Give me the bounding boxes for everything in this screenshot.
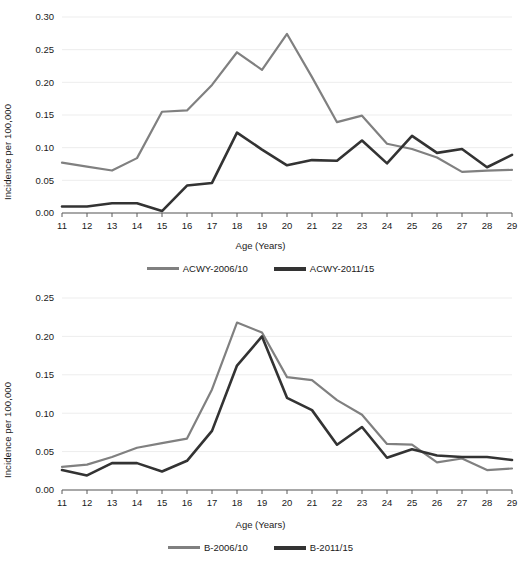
x-tick-label: 12 bbox=[82, 220, 93, 231]
y-tick-label: 0.15 bbox=[36, 369, 55, 380]
x-tick-label: 25 bbox=[407, 220, 418, 231]
x-tick-label: 17 bbox=[207, 497, 218, 508]
y-tick-label: 0.25 bbox=[36, 292, 55, 303]
x-tick-label: 18 bbox=[232, 220, 243, 231]
x-tick-label: 12 bbox=[82, 497, 93, 508]
y-tick-label: 0.05 bbox=[36, 446, 55, 457]
line-chart-acwy: 0.000.050.100.150.200.250.30111213141516… bbox=[0, 0, 521, 240]
x-tick-label: 24 bbox=[382, 497, 393, 508]
legend-b: B-2006/10 B-2011/15 bbox=[0, 542, 521, 553]
x-tick-label: 15 bbox=[157, 497, 168, 508]
x-tick-label: 18 bbox=[232, 497, 243, 508]
y-axis-title-b: Incidence per 100,000 bbox=[2, 382, 13, 478]
legend-swatch-line-icon bbox=[147, 267, 179, 270]
chart-panel-acwy: 0.000.050.100.150.200.250.30111213141516… bbox=[0, 0, 521, 281]
y-tick-label: 0.10 bbox=[36, 408, 55, 419]
x-axis-title-b: Age (Years) bbox=[0, 519, 521, 530]
legend-label: B-2011/15 bbox=[310, 542, 353, 553]
y-tick-label: 0.10 bbox=[36, 142, 55, 153]
plot-area-b: 0.000.050.100.150.200.251112131415161718… bbox=[0, 281, 521, 519]
x-tick-label: 27 bbox=[457, 497, 468, 508]
x-tick-label: 28 bbox=[482, 220, 493, 231]
x-tick-label: 26 bbox=[432, 497, 443, 508]
legend-swatch-line-icon bbox=[168, 546, 200, 549]
x-tick-label: 19 bbox=[257, 497, 268, 508]
series-line-acwy-2011-15 bbox=[62, 133, 512, 211]
x-tick-label: 13 bbox=[107, 220, 118, 231]
x-tick-label: 21 bbox=[307, 497, 318, 508]
line-chart-b: 0.000.050.100.150.200.251112131415161718… bbox=[0, 281, 521, 519]
plot-area-acwy: 0.000.050.100.150.200.250.30111213141516… bbox=[0, 0, 521, 240]
y-tick-label: 0.00 bbox=[36, 484, 55, 495]
legend-label: ACWY-2006/10 bbox=[183, 263, 248, 274]
y-tick-label: 0.20 bbox=[36, 77, 55, 88]
x-tick-label: 11 bbox=[57, 220, 67, 231]
x-tick-label: 23 bbox=[357, 497, 368, 508]
x-tick-label: 19 bbox=[257, 220, 268, 231]
x-tick-label: 28 bbox=[482, 497, 493, 508]
legend-label: ACWY-2011/15 bbox=[310, 263, 374, 274]
x-tick-label: 23 bbox=[357, 220, 368, 231]
x-tick-label: 25 bbox=[407, 497, 418, 508]
x-tick-label: 24 bbox=[382, 220, 393, 231]
y-tick-label: 0.20 bbox=[36, 331, 55, 342]
x-tick-label: 20 bbox=[282, 220, 293, 231]
y-axis-title-acwy: Incidence per 100,000 bbox=[2, 104, 13, 200]
x-tick-label: 22 bbox=[332, 220, 343, 231]
legend-swatch-line-icon bbox=[274, 267, 306, 271]
chart-panel-b: 0.000.050.100.150.200.251112131415161718… bbox=[0, 281, 521, 566]
legend-swatch-line-icon bbox=[274, 546, 306, 550]
x-tick-label: 17 bbox=[207, 220, 218, 231]
x-tick-label: 14 bbox=[132, 220, 143, 231]
x-tick-label: 16 bbox=[182, 497, 193, 508]
figure-two-panel-line-charts: 0.000.050.100.150.200.250.30111213141516… bbox=[0, 0, 521, 566]
legend-acwy: ACWY-2006/10 ACWY-2011/15 bbox=[0, 263, 521, 274]
x-tick-label: 22 bbox=[332, 497, 343, 508]
x-tick-label: 27 bbox=[457, 220, 468, 231]
x-axis-title-acwy: Age (Years) bbox=[0, 240, 521, 251]
y-tick-label: 0.30 bbox=[36, 11, 55, 22]
x-tick-label: 21 bbox=[307, 220, 318, 231]
legend-item-acwy-2006-10[interactable]: ACWY-2006/10 bbox=[147, 263, 248, 274]
y-tick-label: 0.15 bbox=[36, 109, 55, 120]
x-tick-label: 26 bbox=[432, 220, 443, 231]
y-tick-label: 0.00 bbox=[36, 207, 55, 218]
x-tick-label: 20 bbox=[282, 497, 293, 508]
x-tick-label: 16 bbox=[182, 220, 193, 231]
x-tick-label: 14 bbox=[132, 497, 143, 508]
x-tick-label: 29 bbox=[507, 220, 518, 231]
y-tick-label: 0.25 bbox=[36, 44, 55, 55]
x-tick-label: 11 bbox=[57, 497, 67, 508]
x-tick-label: 13 bbox=[107, 497, 118, 508]
x-tick-label: 15 bbox=[157, 220, 168, 231]
series-line-b-2011-15 bbox=[62, 336, 512, 475]
legend-item-b-2011-15[interactable]: B-2011/15 bbox=[274, 542, 353, 553]
legend-item-b-2006-10[interactable]: B-2006/10 bbox=[168, 542, 248, 553]
y-tick-label: 0.05 bbox=[36, 175, 55, 186]
legend-item-acwy-2011-15[interactable]: ACWY-2011/15 bbox=[274, 263, 374, 274]
x-tick-label: 29 bbox=[507, 497, 518, 508]
legend-label: B-2006/10 bbox=[204, 542, 248, 553]
